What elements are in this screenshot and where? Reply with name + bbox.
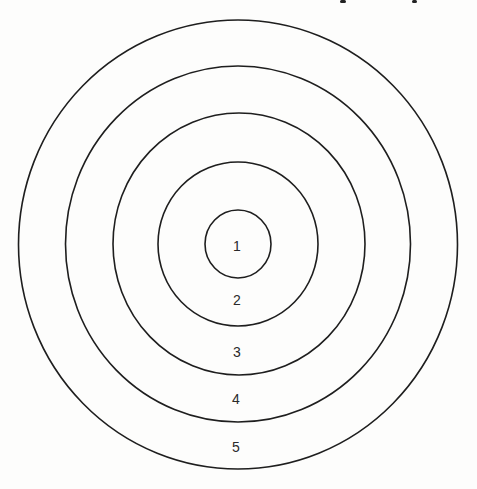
zone-label-1: 1: [233, 238, 241, 254]
zone-label-2: 2: [233, 292, 241, 308]
zone-label-4: 4: [232, 391, 240, 407]
zone-label-3: 3: [233, 344, 241, 360]
zone-label-5: 5: [232, 439, 240, 455]
concentric-rings-diagram: 1 2 3 4 5: [0, 0, 477, 489]
